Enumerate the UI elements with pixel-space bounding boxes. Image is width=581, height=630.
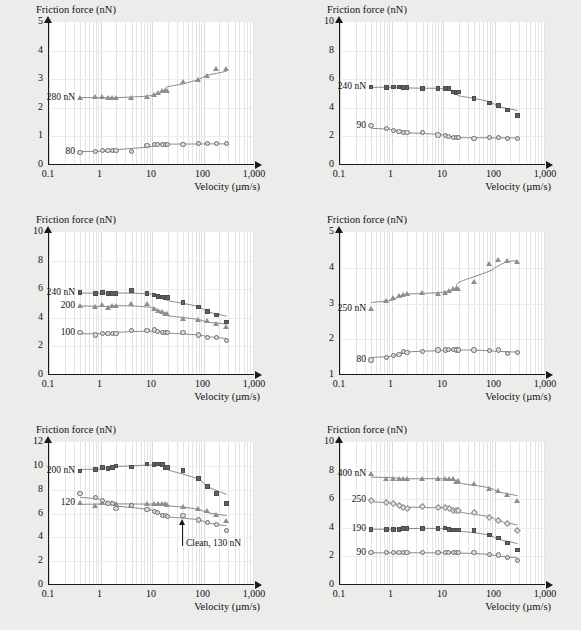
trend-curves: [340, 442, 546, 585]
data-point-square: [205, 484, 210, 489]
data-point-triangle: [164, 502, 170, 507]
data-point-triangle: [213, 66, 219, 71]
data-point-circle: [487, 552, 492, 557]
x-axis-title: Velocity (µm/s): [471, 391, 551, 402]
data-point-circle: [93, 495, 98, 500]
data-point-triangle: [128, 301, 134, 306]
y-axis-arrow-icon: [44, 436, 52, 443]
data-point-circle: [196, 517, 201, 522]
data-point-square: [78, 469, 83, 474]
data-point-circle: [113, 331, 118, 336]
y-axis-tick-label: 3: [18, 72, 43, 83]
series-load-label: 250 nN: [324, 303, 366, 313]
data-point-square: [369, 527, 374, 532]
x-axis-tick-label: 1: [78, 378, 122, 389]
x-axis-tick-label: 10: [420, 168, 464, 179]
data-point-square: [472, 96, 477, 101]
data-point-triangle: [223, 518, 229, 523]
data-point-circle: [368, 357, 373, 362]
plot-area: [339, 22, 545, 165]
data-point-triangle: [435, 291, 441, 296]
y-axis-tick-label: 4: [18, 311, 43, 322]
y-axis-tick-label: 10: [18, 225, 43, 236]
data-point-triangle: [383, 476, 389, 481]
chart-panel-hdt: Friction force (nN)HDT0123450.11101001,0…: [0, 0, 291, 210]
data-point-square: [129, 465, 134, 470]
data-point-square: [196, 476, 201, 481]
data-point-square: [196, 305, 201, 310]
y-axis-tick-label: 5: [309, 225, 334, 236]
x-axis-tick-label: 10: [420, 378, 464, 389]
data-point-triangle: [213, 512, 219, 517]
y-axis-arrow-icon: [335, 436, 343, 443]
data-point-square: [100, 465, 105, 470]
x-axis-tick-label: 100: [181, 588, 225, 599]
data-point-square: [181, 468, 186, 473]
x-axis-tick-label: 1,000: [232, 378, 276, 389]
data-point-triangle: [419, 476, 425, 481]
data-point-circle: [180, 142, 185, 147]
data-point-triangle: [471, 481, 477, 486]
x-axis-tick-label: 1: [369, 588, 413, 599]
data-point-square: [100, 290, 105, 295]
data-point-square: [391, 527, 396, 532]
series-load-label: 100: [33, 327, 75, 337]
data-point-square: [384, 527, 389, 532]
y-axis-arrow-icon: [335, 226, 343, 233]
plot-area: [339, 442, 545, 585]
data-point-square: [78, 290, 83, 295]
data-point-square: [129, 288, 134, 293]
x-axis-tick-label: 1,000: [232, 588, 276, 599]
chart-panel-mha: Friction force (nN)MHA123450.11101001,00…: [291, 210, 581, 420]
data-point-circle: [205, 335, 210, 340]
data-point-square: [165, 295, 170, 300]
plot-area: [48, 232, 254, 375]
y-axis-tick-label: 4: [18, 530, 43, 541]
data-point-square: [420, 526, 425, 531]
data-point-square: [181, 300, 186, 305]
data-point-square: [114, 291, 119, 296]
data-point-circle: [404, 550, 409, 555]
annotation-leader-line: [182, 524, 183, 546]
data-point-triangle: [195, 506, 201, 511]
x-axis-tick-label: 1,000: [523, 588, 567, 599]
data-point-circle: [196, 332, 201, 337]
data-point-triangle: [180, 79, 186, 84]
data-point-triangle: [419, 290, 425, 295]
data-point-square: [420, 86, 425, 91]
data-point-circle: [496, 347, 501, 352]
data-point-square: [114, 464, 119, 469]
figure-root: Friction force (nN)HDT0123450.11101001,0…: [0, 0, 581, 630]
x-axis-tick-label: 10: [129, 378, 173, 389]
data-point-triangle: [92, 304, 98, 309]
data-point-square: [93, 467, 98, 472]
series-load-label: 200: [33, 300, 75, 310]
series-load-label: 190: [324, 523, 366, 533]
data-point-square: [405, 526, 410, 531]
data-point-circle: [471, 550, 476, 555]
data-point-square: [487, 533, 492, 538]
data-point-square: [205, 309, 210, 314]
data-point-triangle: [164, 311, 170, 316]
data-point-circle: [496, 135, 501, 140]
y-axis-title: Friction force (nN): [327, 4, 407, 15]
data-point-triangle: [213, 321, 219, 326]
data-point-triangle: [77, 500, 83, 505]
data-point-circle: [77, 330, 82, 335]
x-axis-tick-label: 1: [369, 168, 413, 179]
plot-area: [48, 442, 254, 585]
y-axis-tick-label: 4: [309, 261, 334, 272]
x-axis-tick-label: 0.1: [317, 168, 361, 179]
data-point-circle: [435, 550, 440, 555]
chart-panel-dhbp: Friction force (nN)DHBp02468100.11101001…: [291, 420, 581, 630]
data-point-triangle: [514, 498, 520, 503]
data-point-triangle: [223, 66, 229, 71]
data-point-triangle: [195, 317, 201, 322]
y-axis-tick-label: 6: [18, 507, 43, 518]
y-axis-tick-label: 10: [309, 15, 334, 26]
data-point-square: [487, 101, 492, 106]
y-axis-tick-label: 2: [18, 101, 43, 112]
y-axis-tick-label: 10: [309, 435, 334, 446]
y-axis-arrow-icon: [44, 16, 52, 23]
series-load-label: 90: [324, 120, 366, 130]
